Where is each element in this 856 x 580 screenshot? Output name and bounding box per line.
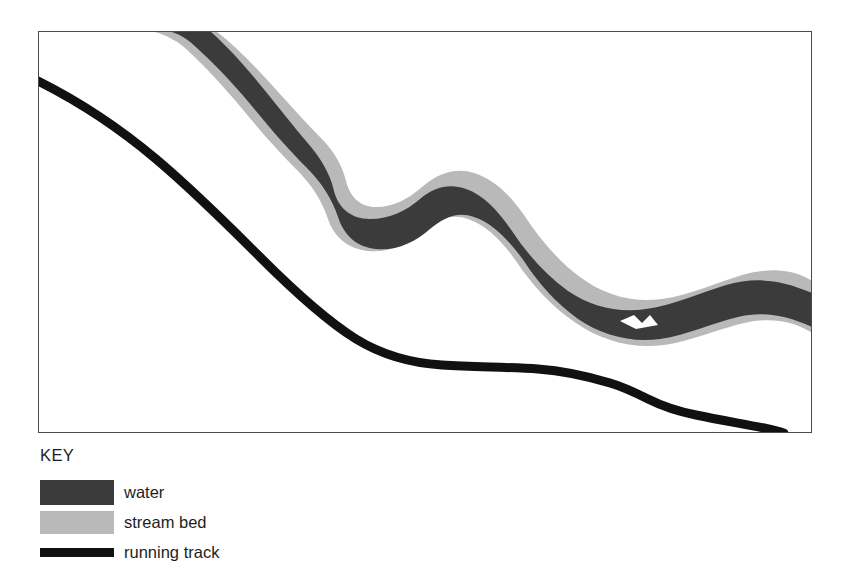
- running-track-line: [38, 81, 784, 433]
- water-swatch-wrap: [40, 479, 114, 506]
- running-track-swatch-wrap: [40, 539, 114, 566]
- running-track-line-icon: [40, 548, 114, 557]
- key-item-stream-bed: stream bed: [38, 509, 438, 536]
- map-canvas: [38, 31, 812, 433]
- key-title: KEY: [40, 446, 438, 465]
- key-item-water: water: [38, 479, 438, 506]
- key-item-running-track: running track: [38, 539, 438, 566]
- key-legend: KEY water stream bed running track: [38, 446, 438, 569]
- key-label-running-track: running track: [124, 543, 219, 562]
- water-swatch-icon: [40, 480, 114, 505]
- stream-bed-swatch-wrap: [40, 509, 114, 536]
- key-label-stream-bed: stream bed: [124, 513, 207, 532]
- stream-bed-swatch-icon: [40, 511, 114, 534]
- key-label-water: water: [124, 483, 164, 502]
- map-frame: [38, 31, 812, 433]
